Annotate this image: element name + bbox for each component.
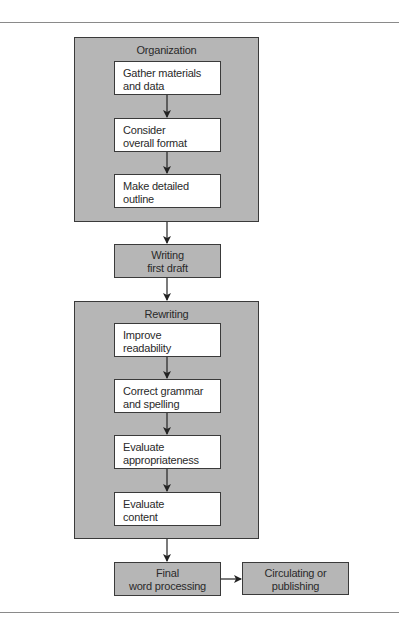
bottom-rule	[0, 612, 399, 613]
flow-arrows	[0, 0, 399, 629]
